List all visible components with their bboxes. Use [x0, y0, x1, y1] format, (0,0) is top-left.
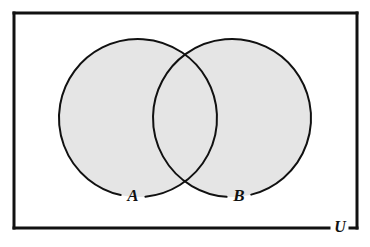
set-a-label: A [126, 186, 138, 205]
shaded-region-union [59, 39, 311, 197]
set-b-label: B [232, 186, 244, 205]
venn-diagram-figure: A B U [0, 0, 370, 247]
venn-diagram-canvas: A B U [0, 0, 370, 247]
universe-label: U [334, 218, 347, 235]
